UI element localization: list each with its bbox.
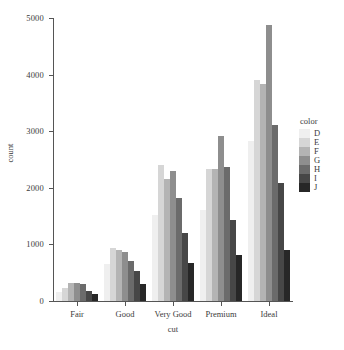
x-tick-label: Good [116,309,135,319]
y-tick-label: 1000 [0,239,44,249]
legend-swatch-icon [299,138,310,147]
bar-group [152,18,194,301]
y-tick-label: 4000 [0,70,44,80]
legend-swatch-icon [299,129,310,138]
legend-swatch-icon [299,174,310,183]
bar[interactable] [236,255,242,301]
legend-swatch-icon [299,156,310,165]
bar[interactable] [188,263,194,301]
x-tick-mark [77,302,78,306]
x-tick-mark [173,302,174,306]
x-tick-label: Premium [205,309,236,319]
y-tick-label: 5000 [0,13,44,23]
chart-root: 010002000300040005000 FairGoodVery GoodP… [0,0,344,350]
x-tick-mark [269,302,270,306]
legend-swatch-icon [299,183,310,192]
bar-group [248,18,290,301]
legend-label: J [314,183,317,192]
y-tick-mark [49,301,53,302]
legend-title: color [299,116,320,126]
legend: color DEFGHIJ [299,116,320,192]
plot-area [53,18,290,301]
legend-swatch-icon [299,147,310,156]
x-axis-title: cut [53,324,293,334]
y-tick-label: 0 [0,296,44,306]
x-tick-mark [221,302,222,306]
x-tick-label: Very Good [154,309,191,319]
y-axis-title: count [5,103,15,203]
bar[interactable] [284,250,290,301]
bar[interactable] [140,284,146,301]
legend-items: DEFGHIJ [299,129,320,192]
x-tick-label: Fair [70,309,84,319]
bar-group [200,18,242,301]
x-tick-mark [125,302,126,306]
legend-swatch-icon [299,165,310,174]
bar-group [56,18,98,301]
legend-item[interactable]: J [299,183,320,192]
bar[interactable] [92,294,98,301]
bar-group [104,18,146,301]
x-tick-label: Ideal [261,309,278,319]
